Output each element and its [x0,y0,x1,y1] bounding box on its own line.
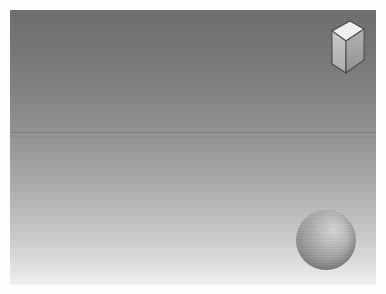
sphere-object[interactable] [296,210,356,270]
sphere-texture-overlay [296,210,356,270]
scene-viewport[interactable] [10,10,376,285]
cube-icon [318,15,364,73]
cube-object[interactable] [318,15,364,73]
render-frame [0,0,386,294]
